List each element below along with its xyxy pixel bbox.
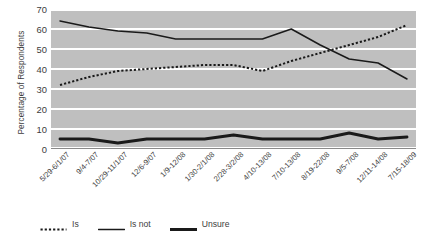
legend-item-is[interactable]: Is — [40, 219, 79, 229]
legend-swatch-icon — [98, 220, 125, 229]
y-axis-tick-label: 60 — [37, 24, 47, 35]
y-axis-tick-labels: 010203040506070 — [20, 9, 47, 149]
y-axis-tick-label: 20 — [37, 104, 47, 115]
x-axis-tick-labels: 5/29-6/1/079/4-7/0710/29-11/1/0712/6-9/0… — [51, 150, 416, 206]
plot-area — [51, 9, 416, 149]
y-axis-tick-label: 50 — [37, 44, 47, 55]
y-axis-tick-label: 30 — [37, 84, 47, 95]
legend-label: Unsure — [202, 219, 230, 229]
series-svg — [51, 9, 416, 149]
legend-item-unsure[interactable]: Unsure — [170, 219, 230, 229]
series-line-is-not — [60, 21, 407, 79]
legend-label: Is — [72, 219, 79, 229]
series-layer — [51, 9, 416, 149]
legend-item-is-not[interactable]: Is not — [98, 219, 151, 229]
y-axis-tick-label: 70 — [37, 4, 47, 15]
series-line-is — [60, 25, 407, 85]
series-line-unsure — [60, 133, 407, 143]
legend-swatch-icon — [40, 220, 67, 229]
chart-figure: Percentage of Respondents 01020304050607… — [0, 0, 423, 246]
chart-legend: IsIs notUnsure — [40, 219, 229, 229]
legend-label: Is not — [130, 219, 151, 229]
y-axis-tick-label: 0 — [42, 144, 47, 155]
y-axis-tick-label: 10 — [37, 124, 47, 135]
y-axis-tick-label: 40 — [37, 64, 47, 75]
legend-swatch-icon — [170, 220, 197, 229]
